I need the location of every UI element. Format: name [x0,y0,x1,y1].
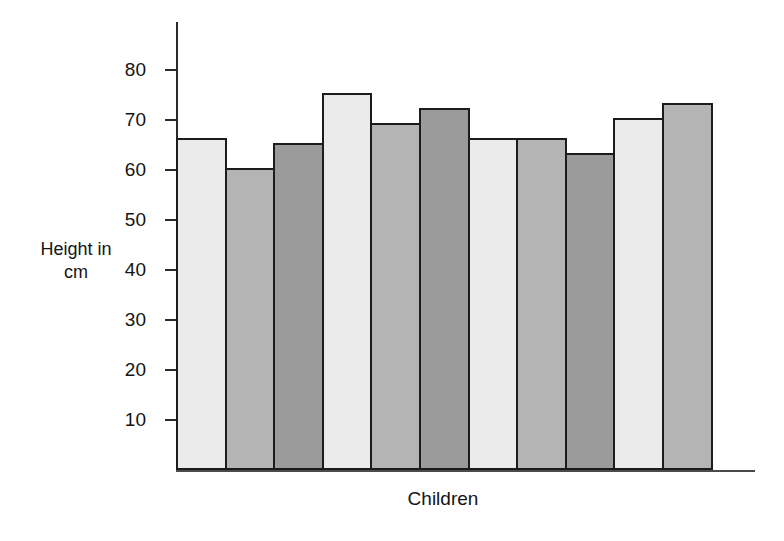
y-axis-tick-label: 80 [100,60,146,79]
x-axis-title: Children [176,488,710,510]
y-axis-title: Height incm [24,238,128,284]
bar [176,138,227,470]
bar [516,138,567,470]
bar-chart-figure: 1020304050607080 Height incm Children [0,0,784,541]
bar [273,143,324,470]
y-axis-tick-label: 60 [100,160,146,179]
y-axis-tick-label: 30 [100,310,146,329]
x-axis-line [176,470,755,472]
bar [662,103,713,470]
bar [565,153,616,470]
bar [225,168,276,470]
y-axis-tick-label: 20 [100,360,146,379]
y-axis-title-line: cm [64,262,88,282]
bar [419,108,470,470]
bar [370,123,421,470]
y-axis-title-line: Height in [40,239,111,259]
bar [322,93,373,470]
bar [468,138,519,470]
y-axis-tick-label: 50 [100,210,146,229]
bar [613,118,664,470]
plot-area [176,22,755,470]
y-axis-tick-label: 10 [100,410,146,429]
y-axis-tick-label: 70 [100,110,146,129]
